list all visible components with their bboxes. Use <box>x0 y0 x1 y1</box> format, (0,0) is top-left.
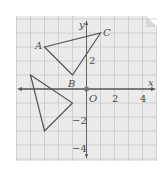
axis-label-y: y <box>78 19 85 30</box>
coordinate-grid-diagram: y x O A B C 2 4 2 −2 −4 <box>0 0 162 170</box>
y-tick-label-neg4: −4 <box>72 143 87 154</box>
vertex-label-a: A <box>34 40 42 51</box>
vertex-label-c: C <box>103 27 111 38</box>
vertex-label-b: B <box>67 78 75 89</box>
axis-label-x: x <box>148 77 154 88</box>
y-tick-label-2: 2 <box>89 55 95 66</box>
x-tick-label-2: 2 <box>112 93 118 104</box>
y-tick-label-neg2: −2 <box>72 115 87 126</box>
folded-corner <box>146 16 157 27</box>
origin-label: O <box>89 93 97 104</box>
x-tick-label-4: 4 <box>140 93 146 104</box>
origin-point <box>84 87 89 92</box>
